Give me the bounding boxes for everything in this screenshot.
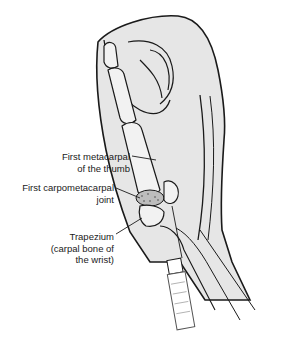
label-line: Trapezium — [20, 231, 114, 243]
label-line: the wrist) — [20, 254, 114, 266]
label-trapezium: Trapezium (carpal bone of the wrist) — [20, 231, 114, 266]
label-line: First carpometacarpal — [0, 182, 114, 194]
label-cmc-joint: First carpometacarpal joint — [0, 182, 114, 205]
thumb-distal-phalanx — [104, 43, 118, 69]
label-first-metacarpal: First metacarpal of the thumb — [20, 151, 130, 174]
label-line: joint — [0, 194, 114, 206]
cmc-joint-region — [136, 190, 164, 206]
label-line: (carpal bone of — [20, 243, 114, 255]
label-line: of the thumb — [20, 163, 130, 175]
label-line: First metacarpal — [20, 151, 130, 163]
